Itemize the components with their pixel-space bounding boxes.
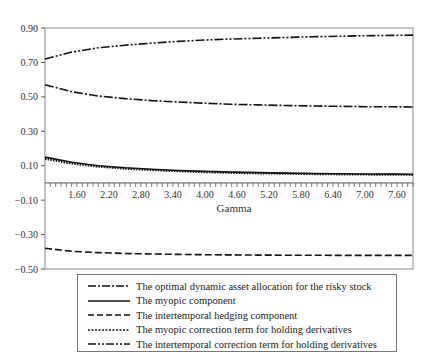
plot-frame bbox=[45, 28, 413, 269]
legend-swatch-solid bbox=[88, 297, 130, 305]
legend-swatch-dotted bbox=[88, 326, 130, 334]
x-tick-label: 5.20 bbox=[260, 189, 278, 200]
y-tick-label: 0.90 bbox=[21, 23, 39, 34]
legend-label: The intertemporal correction term for ho… bbox=[136, 339, 377, 350]
chart-legend: The optimal dynamic asset allocation for… bbox=[77, 274, 397, 352]
x-tick-label: 5.80 bbox=[292, 189, 310, 200]
legend-label: The intertemporal hedging component bbox=[136, 310, 297, 321]
y-axis: 0.900.700.500.300.10−0.10−0.30−0.50 bbox=[15, 23, 45, 275]
y-tick-label: 0.50 bbox=[21, 91, 39, 102]
x-tick-label: 3.40 bbox=[164, 189, 182, 200]
x-tick-label: 4.60 bbox=[228, 189, 246, 200]
y-tick-label: 0.30 bbox=[21, 126, 39, 137]
y-tick-label: 0.70 bbox=[21, 57, 39, 68]
x-axis: 1.602.202.803.404.004.605.205.806.407.00… bbox=[45, 183, 413, 200]
series-line-dash-dot bbox=[45, 85, 413, 107]
legend-swatch-dash-dot bbox=[88, 282, 130, 290]
x-axis-title: Gamma bbox=[217, 202, 252, 214]
legend-label: The optimal dynamic asset allocation for… bbox=[136, 281, 372, 292]
x-tick-label: 4.00 bbox=[196, 189, 214, 200]
x-tick-label: 2.80 bbox=[132, 189, 150, 200]
series-line-dotted bbox=[45, 159, 413, 175]
legend-label: The myopic component bbox=[136, 295, 236, 306]
plot-border bbox=[45, 28, 413, 269]
legend-swatch-dashed bbox=[88, 311, 130, 319]
x-tick-label: 6.40 bbox=[324, 189, 342, 200]
y-tick-label: −0.10 bbox=[15, 195, 38, 206]
x-tick-label: 2.20 bbox=[100, 189, 118, 200]
y-tick-label: −0.30 bbox=[15, 229, 38, 240]
x-tick-label: 7.60 bbox=[388, 189, 406, 200]
legend-swatch-dash-dot-dot bbox=[88, 340, 130, 348]
x-tick-label: 7.00 bbox=[356, 189, 374, 200]
series-line-dashed bbox=[45, 248, 413, 255]
y-tick-label: −0.50 bbox=[15, 264, 38, 275]
y-tick-label: 0.10 bbox=[21, 160, 39, 171]
legend-item: The optimal dynamic asset allocation for… bbox=[88, 279, 396, 294]
legend-item: The intertemporal hedging component bbox=[88, 308, 396, 323]
legend-item: The myopic correction term for holding d… bbox=[88, 323, 396, 338]
x-tick-label: 1.60 bbox=[68, 189, 86, 200]
legend-item: The intertemporal correction term for ho… bbox=[88, 337, 396, 352]
series-lines bbox=[45, 35, 413, 255]
series-line-dash-dot-dot bbox=[45, 35, 413, 59]
legend-label: The myopic correction term for holding d… bbox=[136, 324, 352, 335]
legend-item: The myopic component bbox=[88, 294, 396, 309]
